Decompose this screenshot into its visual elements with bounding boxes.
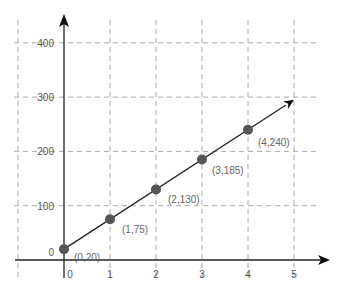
point-label: (4,240) — [258, 137, 290, 148]
y-tick-label: 200 — [37, 146, 54, 157]
trend-line — [64, 105, 286, 249]
data-series — [59, 100, 294, 254]
x-tick-label: 5 — [291, 269, 297, 280]
x-tick-label: 2 — [153, 269, 159, 280]
data-point — [105, 214, 115, 224]
y-tick-label: 100 — [37, 201, 54, 212]
y-tick-label: 300 — [37, 92, 54, 103]
trend-arrow-icon — [283, 100, 294, 109]
data-point — [197, 155, 207, 165]
x-tick-label: 0 — [67, 269, 73, 280]
grid — [14, 20, 318, 278]
y-tick-label: 0 — [48, 247, 54, 258]
point-label: (3,185) — [212, 165, 244, 176]
data-point — [151, 184, 161, 194]
tick-labels: 0123450100200300400 — [37, 38, 297, 280]
data-point — [243, 125, 253, 135]
data-point — [59, 244, 69, 254]
point-label: (2,130) — [168, 194, 200, 205]
line-chart: 0123450100200300400 (0,20)(1,75)(2,130)(… — [0, 0, 339, 289]
x-tick-label: 1 — [107, 269, 113, 280]
y-tick-label: 400 — [37, 38, 54, 49]
point-labels: (0,20)(1,75)(2,130)(3,185)(4,240) — [74, 137, 290, 263]
x-tick-label: 3 — [199, 269, 205, 280]
point-label: (1,75) — [122, 224, 148, 235]
x-tick-label: 4 — [245, 269, 251, 280]
point-label: (0,20) — [74, 252, 100, 263]
